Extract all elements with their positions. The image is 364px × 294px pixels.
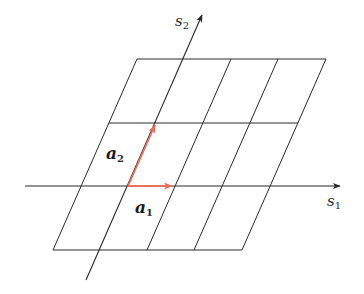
lattice-grid xyxy=(53,59,326,250)
grid-slanted-line xyxy=(194,59,278,250)
s2-axis xyxy=(86,15,202,280)
basis-vectors: a1 a2 xyxy=(106,125,172,218)
s2-axis-label: s2 xyxy=(175,12,189,31)
grid-slanted-line xyxy=(242,59,326,250)
a1-vector-label: a1 xyxy=(135,197,153,218)
grid-slanted-line xyxy=(53,59,137,250)
axes: s1 s2 xyxy=(25,12,341,280)
grid-slanted-line xyxy=(147,59,231,250)
a2-vector-label: a2 xyxy=(106,143,124,164)
lattice-diagram: s1 s2 a1 a2 xyxy=(0,0,364,294)
s1-axis-label: s1 xyxy=(327,192,341,211)
a2-vector xyxy=(128,125,155,186)
